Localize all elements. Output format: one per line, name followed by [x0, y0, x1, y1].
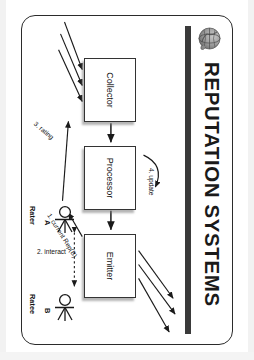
page-left-margin — [0, 0, 6, 360]
node-collector-label: Collector — [105, 72, 115, 108]
arrow-rating — [63, 121, 69, 201]
actor-ratee-role: Ratee — [28, 294, 37, 314]
presentation-slide: REPUTATION SYSTEMS — [21, 15, 233, 345]
actor-ratee-figure — [39, 292, 77, 322]
actor-ratee-letter: B — [43, 308, 52, 313]
emitter-output-arrows — [139, 251, 176, 333]
actor-rater-figure — [39, 204, 77, 234]
actor-rater-role: Rater — [28, 206, 37, 225]
actor-rater-letter: A — [43, 220, 52, 225]
node-processor-label: Processor — [105, 158, 115, 199]
page-canvas: REPUTATION SYSTEMS — [0, 0, 254, 360]
node-emitter: Emitter — [84, 234, 136, 298]
slide-rotation-wrapper: REPUTATION SYSTEMS — [21, 15, 233, 345]
step-label-interact: 2. interact — [37, 248, 66, 255]
page-title: REPUTATION SYSTEMS — [192, 16, 232, 344]
node-processor: Processor — [84, 146, 136, 210]
step-label-update: 4. update — [148, 168, 155, 196]
collector-input-arrows — [59, 22, 83, 102]
reputation-system-diagram: Collector Processor Emitter 1. current R… — [22, 16, 185, 344]
page-bottom-margin — [0, 352, 254, 360]
title-divider — [186, 26, 192, 334]
page-right-margin — [248, 0, 254, 360]
node-emitter-label: Emitter — [105, 252, 115, 281]
node-collector: Collector — [84, 58, 136, 122]
